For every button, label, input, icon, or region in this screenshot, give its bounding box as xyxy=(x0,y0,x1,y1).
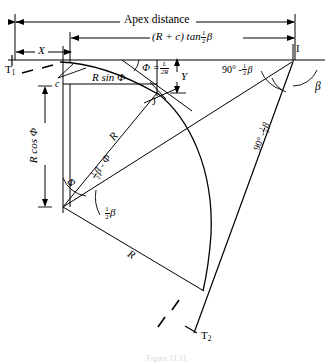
r-sin-phi-label: R sin Φ xyxy=(92,72,125,83)
t1-letter: T xyxy=(5,63,12,75)
c-label: c xyxy=(55,79,59,89)
ninety-deg-text: 90° - xyxy=(222,64,242,75)
r-sin-phi-text: R sin Φ xyxy=(92,71,125,83)
x-label: X xyxy=(38,45,45,56)
t2-dashed-tangent xyxy=(158,300,179,327)
r-cos-phi-label: R cos Φ xyxy=(28,128,39,163)
rc-tan-expression: (R + c) tan xyxy=(152,30,201,42)
i-label: I xyxy=(296,44,300,55)
phi-angle-label: Φ xyxy=(67,177,75,188)
phi-equals: Φ = xyxy=(142,62,160,73)
radius-r-upper-line xyxy=(63,93,157,207)
j-label: J xyxy=(152,97,156,107)
t2-subscript: 2 xyxy=(208,335,212,343)
j-cross-mark-a xyxy=(144,88,178,103)
curve-geometry-diagram xyxy=(0,0,333,363)
t2-label: T2 xyxy=(201,330,211,343)
c-leader-line-2 xyxy=(58,68,86,78)
t2-letter: T xyxy=(201,329,208,341)
beta-symbol: β xyxy=(207,30,212,42)
main-circular-arc xyxy=(156,92,211,291)
half-beta-center-angle-label: 12β xyxy=(104,206,116,221)
c-leader-line xyxy=(58,64,73,78)
figure-caption: Figure 11.11 xyxy=(0,354,333,363)
t1-dashed-tangent xyxy=(22,65,53,73)
t1-subscript: 1 xyxy=(12,69,16,77)
i-to-t2-tangent-line xyxy=(194,62,293,333)
beta-angle-label: β xyxy=(315,81,321,93)
r-cos-phi-dimension xyxy=(38,86,52,207)
t1-label: T1 xyxy=(5,64,15,77)
apex-distance-label: Apex distance xyxy=(124,14,189,26)
l-over-2r-fraction: L2R xyxy=(160,61,169,75)
ninety-minus-half-beta-label: 90° -12β xyxy=(222,63,252,77)
half-fraction-5: 12 xyxy=(105,206,110,221)
rc-tan-label: (R + c) tan12β xyxy=(152,30,212,45)
beta-symbol-4: β xyxy=(110,206,115,218)
y-label: Y xyxy=(181,71,187,82)
half-fraction: 12 xyxy=(201,30,206,45)
beta-symbol-2: β xyxy=(247,64,252,75)
phi-equation-label: Φ =L2R xyxy=(142,61,170,75)
